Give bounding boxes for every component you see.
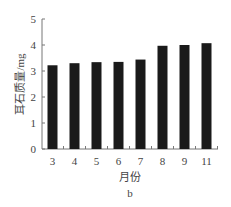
bar (180, 45, 190, 149)
y-axis-title: 耳石质量/mg (14, 53, 26, 115)
x-tick-label: 5 (94, 155, 100, 167)
y-tick-label: 1 (31, 117, 37, 129)
bar-chart: 012345 345678911 耳石质量/mg 月份 b (0, 0, 231, 207)
y-tick-label: 4 (31, 39, 37, 51)
bar (202, 43, 212, 149)
y-tick-label: 0 (31, 143, 37, 155)
x-tick-label: 4 (72, 155, 78, 167)
x-tick-label: 7 (138, 155, 144, 167)
x-tick-label: 8 (160, 155, 166, 167)
bar (48, 65, 58, 149)
bar (136, 60, 146, 149)
bar (70, 63, 80, 149)
y-tick-label: 2 (31, 91, 37, 103)
bar (158, 46, 168, 149)
x-tick-label: 9 (182, 155, 188, 167)
x-tick-label: 6 (116, 155, 122, 167)
chart-caption: b (127, 187, 133, 199)
y-tick-label: 3 (31, 65, 37, 77)
bar (114, 62, 124, 149)
bar (92, 62, 102, 149)
x-tick-label: 3 (50, 155, 56, 167)
bars (48, 43, 212, 149)
x-axis: 345678911 (42, 146, 218, 167)
x-axis-title: 月份 (119, 171, 141, 183)
y-tick-label: 5 (31, 13, 37, 25)
y-axis: 012345 (31, 13, 46, 155)
x-tick-label: 11 (201, 155, 212, 167)
